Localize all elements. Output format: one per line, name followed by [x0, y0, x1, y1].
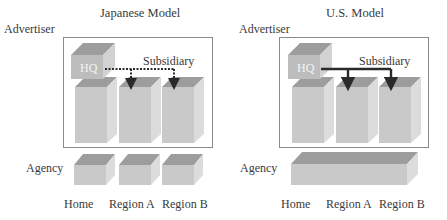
subsidiary-label-left: Subsidiary [143, 54, 194, 68]
agency-cube-home-left [74, 154, 115, 185]
hq-label-left: HQ [80, 61, 98, 75]
japanese-model-title: Japanese Model [100, 6, 181, 20]
hq-cube-left: HQ [71, 43, 115, 79]
advertiser-agency-models-diagram: Japanese Model Advertiser HQ Subsidiary [0, 0, 447, 220]
agency-label-right: Agency [240, 161, 277, 175]
column-label-region-b-right: Region B [379, 197, 425, 211]
us-model: U.S. Model Advertiser HQ Subsidiary [239, 6, 429, 211]
agency-label-left: Agency [26, 161, 63, 175]
advertiser-label-left: Advertiser [4, 22, 55, 36]
column-label-home-left: Home [64, 197, 93, 211]
column-label-region-b-left: Region B [162, 197, 208, 211]
hq-cube-right: HQ [288, 43, 332, 79]
japanese-model: Japanese Model Advertiser HQ Subsidiary [4, 6, 213, 211]
agency-cube-region-a-left [119, 154, 160, 185]
subsidiary-label-right: Subsidiary [359, 54, 410, 68]
subsidiary-cube-region-a-left [119, 77, 161, 143]
us-model-title: U.S. Model [326, 6, 385, 20]
hq-label-right: HQ [297, 61, 315, 75]
column-label-region-a-right: Region A [326, 197, 372, 211]
global-agency-slab-right [291, 152, 418, 185]
subsidiary-cube-home-left [75, 77, 117, 143]
subsidiary-cube-region-a-right [336, 77, 378, 143]
subsidiary-cube-region-b-right [379, 77, 421, 143]
column-label-home-right: Home [281, 197, 310, 211]
subsidiary-cube-region-b-left [162, 77, 204, 143]
advertiser-label-right: Advertiser [239, 22, 290, 36]
column-label-region-a-left: Region A [109, 197, 155, 211]
agency-cube-region-b-left [162, 154, 203, 185]
subsidiary-cube-home-right [292, 77, 334, 143]
